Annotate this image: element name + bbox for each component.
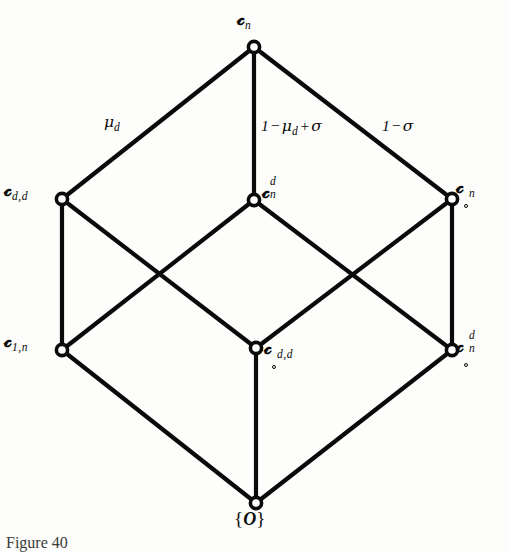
node-label-upper-left: 𝓬d,d <box>4 181 28 203</box>
node-top[interactable] <box>248 41 259 52</box>
fraktur-a-glyph: 𝓬 <box>456 176 464 197</box>
node-label-lower-left: 𝓬1,n <box>4 332 28 354</box>
edge-lower-right-to-bottom <box>256 350 452 503</box>
fraktur-a-glyph: 𝓬 <box>456 335 464 356</box>
node-label-bottom: {O} <box>234 509 265 528</box>
node-label-top: 𝓬n <box>237 10 251 32</box>
fraktur-a-glyph: 𝓬 <box>4 330 12 351</box>
edge-label-left: μd <box>104 114 120 134</box>
node-bottom[interactable] <box>250 497 261 508</box>
fraktur-a-glyph: 𝓬 <box>4 179 12 200</box>
node-upper-center[interactable] <box>248 194 259 205</box>
node-lower-left[interactable] <box>56 344 67 355</box>
node-label-upper-center: 𝓬dn <box>262 176 276 201</box>
edge-lower-left-to-bottom <box>62 350 256 503</box>
node-label-lower-center: 𝓬d,d <box>264 339 293 361</box>
edge-top-to-upper-left <box>62 47 254 199</box>
node-label-lower-right: 𝓬dn <box>456 330 475 355</box>
node-upper-left[interactable] <box>56 193 67 204</box>
edge-label-right: 1 − σ <box>382 118 413 135</box>
edge-label-center: 1 − μd + σ <box>261 118 322 138</box>
fraktur-a-glyph: 𝓬 <box>262 181 270 202</box>
node-label-upper-right: 𝓬n <box>456 178 475 200</box>
node-lower-center[interactable] <box>250 342 261 353</box>
figure-caption: Figure 40 <box>6 534 68 552</box>
fraktur-a-glyph: 𝓬 <box>237 8 245 29</box>
fraktur-a-glyph: 𝓬 <box>264 337 272 358</box>
lattice-edges <box>62 47 452 503</box>
